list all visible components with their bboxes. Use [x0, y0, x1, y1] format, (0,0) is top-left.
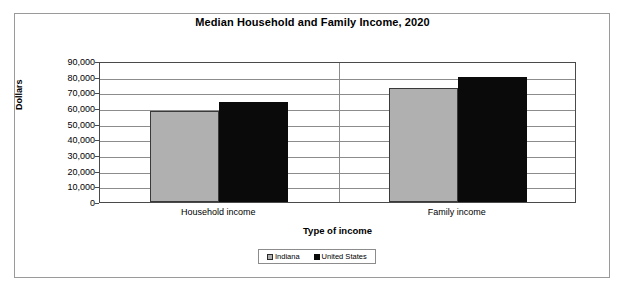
x-tick-label: Family income [338, 207, 577, 217]
y-tick-label: 50,000 [67, 120, 95, 130]
bar-indiana-family-income [389, 88, 458, 202]
y-tick-mark [95, 62, 99, 63]
legend-label: Indiana [275, 252, 300, 261]
y-tick-label: 10,000 [67, 182, 95, 192]
legend-item: United States [314, 252, 367, 261]
y-tick-label: 70,000 [67, 88, 95, 98]
y-tick-label: 30,000 [67, 151, 95, 161]
y-axis-title: Dollars [14, 79, 24, 110]
legend-item: Indiana [267, 252, 300, 261]
bar-indiana-household-income [150, 111, 219, 202]
y-tick-label: 20,000 [67, 167, 95, 177]
y-tick-mark [95, 156, 99, 157]
legend-label: United States [322, 252, 367, 261]
y-tick-label: 40,000 [67, 135, 95, 145]
y-tick-mark [95, 125, 99, 126]
legend-swatch-icon [267, 254, 273, 260]
x-tick-label: Household income [99, 207, 338, 217]
y-tick-mark [95, 187, 99, 188]
chart-screenshot: Median Household and Family Income, 2020… [0, 0, 625, 294]
y-tick-label: 90,000 [67, 57, 95, 67]
x-axis-title: Type of income [99, 225, 576, 236]
chart-legend: IndianaUnited States [258, 249, 376, 264]
y-tick-label: 60,000 [67, 104, 95, 114]
y-tick-label: 80,000 [67, 73, 95, 83]
bar-united-states-family-income [458, 77, 527, 202]
y-tick-mark [95, 140, 99, 141]
category-separator [339, 63, 340, 202]
y-tick-mark [95, 78, 99, 79]
y-tick-mark [95, 109, 99, 110]
bar-united-states-household-income [219, 102, 288, 202]
legend-swatch-icon [314, 254, 320, 260]
y-tick-mark [95, 203, 99, 204]
chart-title: Median Household and Family Income, 2020 [0, 16, 625, 28]
plot-area [99, 62, 576, 203]
y-tick-mark [95, 172, 99, 173]
y-tick-mark [95, 93, 99, 94]
y-axis-tick-labels: 010,00020,00030,00040,00050,00060,00070,… [47, 62, 95, 203]
